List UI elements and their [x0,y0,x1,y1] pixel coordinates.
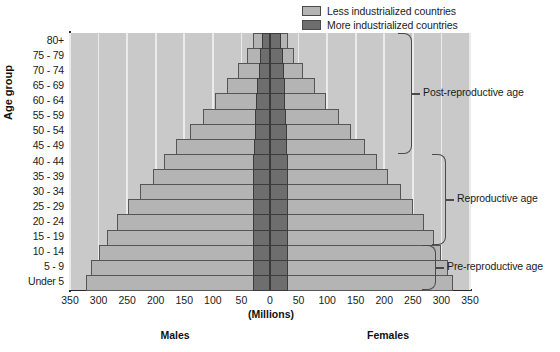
bracket-stem [436,267,444,268]
bar-males-less-industrialized [107,230,270,246]
bar-males-more-industrialized [257,78,270,94]
bar-males-more-industrialized [253,199,270,215]
bar-females-more-industrialized [270,109,286,125]
males-group-label: Males [130,329,220,341]
y-axis-tick-label: 60 - 64 [33,94,64,106]
bar-males-more-industrialized [253,275,270,291]
bar-males-less-industrialized [128,199,270,215]
bar-males-more-industrialized [253,154,270,170]
bar-males-more-industrialized [255,124,270,140]
bar-females-more-industrialized [270,154,288,170]
bracket-stem [412,93,420,94]
bar-females-more-industrialized [270,93,285,109]
bar-females-more-industrialized [270,199,288,215]
y-axis-tick-label: Under 5 [28,275,64,287]
bar-females-less-industrialized [270,230,434,246]
bar-males-more-industrialized [253,230,270,246]
bar-males-more-industrialized [253,245,270,261]
legend-label-less-industrialized: Less industrialized countries [327,5,456,17]
bar-females-more-industrialized [270,275,288,291]
bar-females-more-industrialized [270,78,285,94]
bracket-label: Post-reproductive age [423,86,524,98]
bar-males-more-industrialized [253,169,270,185]
legend-item-less-industrialized: Less industrialized countries [302,4,502,17]
bar-males-less-industrialized [117,214,270,230]
bar-females-more-industrialized [270,169,288,185]
bar-males-more-industrialized [253,260,270,276]
bar-males-less-industrialized [99,245,270,261]
bracket-pre-reproductive-age [422,245,436,290]
bar-females-more-industrialized [270,48,283,64]
y-axis-tick-label: 55 - 59 [33,109,64,121]
bar-females-more-industrialized [270,124,287,140]
bracket-label: Pre-reproductive age [447,260,543,272]
bar-females-more-industrialized [270,63,284,79]
bar-females-less-industrialized [270,245,441,261]
y-axis-tick-label: 20 - 24 [33,215,64,227]
bar-males-more-industrialized [254,139,270,155]
bar-females-more-industrialized [270,184,288,200]
center-axis-line [269,33,271,290]
legend-label-more-industrialized: More industrialized countries [327,19,458,31]
y-axis-tick-label: 75 - 79 [33,49,64,61]
y-axis-tick-label: 25 - 29 [33,200,64,212]
bar-females-more-industrialized [270,33,281,49]
bar-females-more-industrialized [270,214,288,230]
bar-males-more-industrialized [253,184,270,200]
bracket-label: Reproductive age [457,192,538,204]
legend-item-more-industrialized: More industrialized countries [302,18,502,31]
y-axis-title: Age group [2,65,14,120]
y-axis-tick-label: 70 - 74 [33,64,64,76]
bar-males-more-industrialized [255,109,270,125]
y-axis-tick-label: 35 - 39 [33,170,64,182]
y-axis-tick-label: 5 - 9 [44,260,64,272]
bar-females-less-industrialized [270,199,413,215]
bracket-post-reproductive-age [398,33,412,154]
y-axis-tick-label: 65 - 69 [33,79,64,91]
bar-females-more-industrialized [270,139,287,155]
bar-males-less-industrialized [140,184,270,200]
y-axis-tick-label: 10 - 14 [33,245,64,257]
y-axis-tick-label: 50 - 54 [33,124,64,136]
chart-legend: Less industrialized countries More indus… [302,4,502,32]
y-axis-tick-label: 40 - 44 [33,155,64,167]
y-axis-tick-label: 30 - 34 [33,185,64,197]
bar-males-less-industrialized [86,275,270,291]
y-axis-tick-label: 15 - 19 [33,230,64,242]
bar-females-less-industrialized [270,184,401,200]
bar-females-more-industrialized [270,230,288,246]
y-axis-tick-label: 80+ [47,34,64,46]
bar-females-more-industrialized [270,245,288,261]
bar-females-more-industrialized [270,260,288,276]
legend-swatch-more-industrialized [302,20,321,30]
bracket-stem [446,199,454,200]
bar-males-more-industrialized [253,214,270,230]
x-tick-females-350: 350 [450,294,490,306]
population-pyramid-figure: Less industrialized countries More indus… [0,0,560,352]
bar-males-less-industrialized [91,260,270,276]
bar-females-less-industrialized [270,214,424,230]
x-axis-title: (Millions) [226,308,316,320]
bracket-reproductive-age [432,154,446,245]
legend-swatch-less-industrialized [302,6,321,16]
females-group-label: Females [343,329,433,341]
y-axis-tick-label: 45 - 49 [33,139,64,151]
bar-males-more-industrialized [256,93,270,109]
